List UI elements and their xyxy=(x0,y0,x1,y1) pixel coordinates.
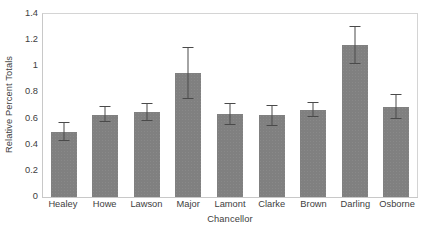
y-axis-tick-label: 0.4 xyxy=(14,139,38,149)
error-bar-cap-bottom xyxy=(100,121,111,122)
x-axis-tick-label: Osborne xyxy=(376,198,418,211)
error-bar-cap-bottom xyxy=(58,140,69,141)
x-axis-tick-label: Lawson xyxy=(126,198,168,211)
error-bar-cap-top xyxy=(58,122,69,123)
error-bar-cap-bottom xyxy=(266,125,277,126)
error-bar xyxy=(58,122,69,140)
error-bar-stem xyxy=(188,47,189,99)
error-bar-cap-bottom xyxy=(183,98,194,99)
error-bar xyxy=(141,103,152,121)
error-bar xyxy=(349,26,360,64)
error-bar-cap-bottom xyxy=(308,116,319,117)
y-axis-tick-label: 0 xyxy=(14,191,38,201)
y-axis-tick-labels: 00.20.40.60.811.21.4 xyxy=(14,0,38,242)
error-bar-stem xyxy=(63,122,64,140)
bar-group xyxy=(375,14,417,197)
x-axis-tick-labels: HealeyHoweLawsonMajorLamontClarkeBrownDa… xyxy=(42,198,418,212)
y-axis-tick-label: 1 xyxy=(14,60,38,70)
x-axis-tick-label: Brown xyxy=(293,198,335,211)
bar xyxy=(300,110,326,197)
bar-group xyxy=(126,14,168,197)
x-axis-title: Chancellor xyxy=(42,213,418,226)
x-axis-tick-label: Healey xyxy=(42,198,84,211)
error-bar-cap-top xyxy=(224,103,235,104)
y-axis-tick-label: 1.4 xyxy=(14,8,38,18)
x-axis-tick-label: Clarke xyxy=(251,198,293,211)
bar xyxy=(259,115,285,197)
plot-inner xyxy=(43,14,417,197)
bar xyxy=(92,115,118,197)
x-axis-tick-label: Lamont xyxy=(209,198,251,211)
x-axis-tick-label: Howe xyxy=(84,198,126,211)
bar-group xyxy=(43,14,85,197)
error-bar-stem xyxy=(229,103,230,125)
error-bar-cap-top xyxy=(100,106,111,107)
error-bar-cap-top xyxy=(308,102,319,103)
error-bar-stem xyxy=(396,94,397,119)
error-bar-cap-bottom xyxy=(349,63,360,64)
error-bar-cap-bottom xyxy=(391,118,402,119)
y-axis-tick-label: 0.6 xyxy=(14,113,38,123)
error-bar-cap-top xyxy=(183,47,194,48)
error-bar xyxy=(100,106,111,123)
error-bar-stem xyxy=(271,105,272,126)
bar-chart: Relative Percent Totals 00.20.40.60.811.… xyxy=(0,0,424,242)
error-bar-cap-top xyxy=(391,94,402,95)
error-bar xyxy=(183,47,194,99)
x-axis-tick-label: Darling xyxy=(334,198,376,211)
y-axis-tick-label: 0.2 xyxy=(14,165,38,175)
error-bar-cap-bottom xyxy=(224,124,235,125)
error-bar-cap-top xyxy=(141,103,152,104)
bar-group xyxy=(334,14,376,197)
bar xyxy=(217,114,243,197)
error-bar xyxy=(266,105,277,126)
bar-group xyxy=(85,14,127,197)
bar-group xyxy=(168,14,210,197)
bar-group xyxy=(251,14,293,197)
bar xyxy=(342,45,368,197)
error-bar xyxy=(391,94,402,119)
plot-area xyxy=(42,13,418,197)
y-axis-tick-label: 0.8 xyxy=(14,86,38,96)
bar xyxy=(383,107,409,197)
bar-group xyxy=(209,14,251,197)
error-bar-cap-bottom xyxy=(141,120,152,121)
error-bar-stem xyxy=(105,106,106,123)
error-bar-stem xyxy=(146,103,147,121)
bar xyxy=(51,132,77,197)
error-bar-cap-top xyxy=(349,26,360,27)
bar-group xyxy=(292,14,334,197)
bar xyxy=(134,112,160,197)
error-bar xyxy=(308,102,319,117)
y-axis-tick-label: 1.2 xyxy=(14,34,38,44)
error-bar-cap-top xyxy=(266,105,277,106)
x-axis-tick-label: Major xyxy=(167,198,209,211)
error-bar-stem xyxy=(354,26,355,64)
error-bar xyxy=(224,103,235,125)
error-bar-stem xyxy=(313,102,314,117)
